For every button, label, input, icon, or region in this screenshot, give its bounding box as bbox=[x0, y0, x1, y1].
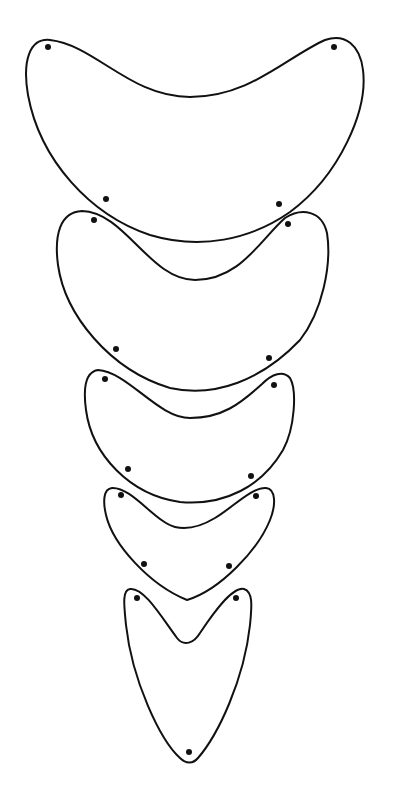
rivet-hole-dot bbox=[233, 595, 239, 601]
crescent-plate-4 bbox=[104, 488, 274, 600]
rivet-hole-dot bbox=[186, 749, 192, 755]
stacked-crescent-plates-illustration bbox=[0, 0, 395, 802]
rivet-hole-dot bbox=[141, 561, 147, 567]
plate-outline bbox=[124, 589, 251, 763]
rivet-hole-dot bbox=[285, 221, 291, 227]
rivet-hole-dot bbox=[276, 201, 282, 207]
rivet-hole-dot bbox=[118, 492, 124, 498]
plate-outline bbox=[57, 211, 328, 391]
rivet-hole-dot bbox=[45, 44, 51, 50]
rivet-hole-dot bbox=[102, 376, 108, 382]
crescent-plate-2 bbox=[57, 211, 328, 391]
rivet-hole-dot bbox=[271, 382, 277, 388]
rivet-hole-dot bbox=[248, 473, 254, 479]
rivet-hole-dot bbox=[125, 466, 131, 472]
rivet-hole-dot bbox=[266, 355, 272, 361]
rivet-hole-dot bbox=[226, 563, 232, 569]
crescent-plate-5 bbox=[124, 589, 251, 763]
shapes-layer bbox=[26, 38, 364, 762]
rivet-hole-dot bbox=[91, 217, 97, 223]
rivet-hole-dot bbox=[113, 346, 119, 352]
rivet-hole-dot bbox=[253, 493, 259, 499]
rivet-hole-dot bbox=[103, 196, 109, 202]
rivet-hole-dot bbox=[331, 44, 337, 50]
rivet-hole-dot bbox=[134, 595, 140, 601]
plate-outline bbox=[104, 488, 274, 600]
